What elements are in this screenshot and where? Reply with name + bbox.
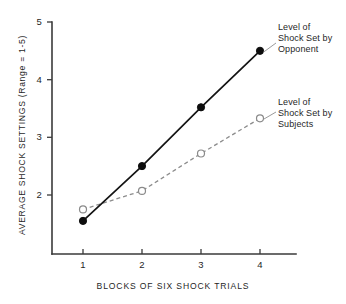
y-axis-title-wrap: AVERAGE SHOCK SETTINGS (Range = 1-5) (12, 0, 32, 270)
data-point-opponent-2 (138, 163, 145, 170)
x-tick-label-2: 2 (134, 259, 150, 270)
y-axis-title: AVERAGE SHOCK SETTINGS (Range = 1-5) (17, 35, 27, 235)
annotation-opponent: Level of Shock Set by Opponent (278, 22, 332, 56)
leader-line-opponent (263, 43, 276, 53)
annotation-opponent-line2: Shock Set by (278, 33, 332, 44)
leader-line-subjects (264, 112, 276, 119)
annotation-subjects-line2: Shock Set by (278, 108, 332, 119)
data-point-subjects-3 (198, 150, 205, 157)
data-point-opponent-1 (79, 217, 86, 224)
annotation-opponent-line1: Level of (278, 22, 332, 33)
annotation-subjects: Level of Shock Set by Subjects (278, 97, 332, 131)
x-tick-label-3: 3 (193, 259, 209, 270)
x-tick-label-4: 4 (252, 259, 268, 270)
data-point-subjects-2 (139, 187, 146, 194)
data-point-opponent-4 (256, 47, 263, 54)
chart-figure: 5 4 3 2 1 2 3 4 BLOCKS OF SIX SHOCK TRIA… (0, 0, 346, 304)
annotation-subjects-line3: Subjects (278, 119, 332, 130)
annotation-subjects-line1: Level of (278, 97, 332, 108)
annotation-opponent-line3: Opponent (278, 44, 332, 55)
x-tick-label-1: 1 (75, 259, 91, 270)
data-point-opponent-3 (197, 104, 204, 111)
series-line-opponent (83, 51, 260, 221)
x-axis-title: BLOCKS OF SIX SHOCK TRIALS (0, 281, 346, 291)
data-point-subjects-1 (80, 206, 87, 213)
data-point-subjects-4 (257, 115, 264, 122)
